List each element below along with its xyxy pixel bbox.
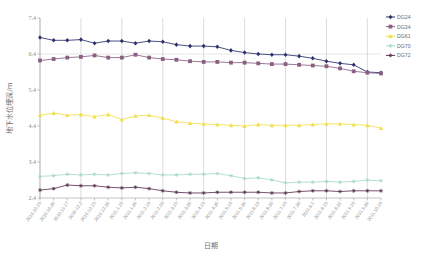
data-point [338,67,342,71]
data-point [52,187,56,191]
data-point [134,185,138,189]
series-DG70 [38,171,383,185]
data-point [38,175,42,179]
series-line-DG24 [40,37,381,72]
data-point [202,172,206,176]
series-DG34 [38,53,383,76]
data-point [79,173,83,177]
data-point [202,60,206,64]
series-line-DG61 [40,113,381,128]
data-point [297,180,301,184]
series-DG24 [38,35,383,75]
data-point [338,180,342,184]
data-point [175,58,179,62]
y-tick-label: 6.4 [29,51,37,57]
series-line-DG34 [40,55,381,74]
data-point [352,180,356,184]
data-point [147,172,151,176]
data-point [52,57,56,61]
data-point [352,69,356,73]
data-point [202,191,206,195]
data-point [338,61,342,66]
data-point [297,190,301,194]
data-point [284,62,288,66]
data-point [284,52,288,57]
y-tick-label: 4.4 [29,123,37,129]
data-point [65,172,69,176]
data-point [188,44,192,49]
chart-canvas: 2.43.44.45.46.47.42010.10.152010.10.3020… [0,0,422,254]
data-point [79,55,83,59]
legend-label-DG61[interactable]: DG61 [397,33,411,39]
data-point [389,54,393,58]
data-point [365,189,369,193]
x-tick-label: 2011.7.30 [286,200,302,220]
data-point [325,64,329,68]
data-point [365,71,369,75]
data-point [134,171,138,175]
data-point [93,172,97,176]
data-point [134,53,138,57]
data-point [243,190,247,194]
groundwater-depth-chart: 2.43.44.45.46.47.42010.10.152010.10.3020… [0,0,422,254]
data-point [175,173,179,177]
series-line-DG72 [40,185,381,193]
legend-marker-DG24 [389,15,393,20]
data-point [270,178,274,182]
data-point [379,72,383,76]
data-point [284,191,288,195]
data-point [365,178,369,182]
data-point [256,176,260,180]
legend-label-DG34[interactable]: DG34 [397,24,411,30]
data-point [147,39,151,44]
data-point [188,59,192,63]
data-point [93,54,97,58]
data-point [297,63,301,67]
data-point [311,189,315,193]
data-point [93,41,97,46]
data-point [389,44,393,48]
data-point [229,61,233,65]
data-point [52,38,56,43]
legend-label-DG24[interactable]: DG24 [397,14,411,20]
data-point [120,186,124,190]
data-point [256,190,260,194]
data-point [284,181,288,185]
data-point [297,54,301,59]
data-point [65,56,69,60]
data-point [147,187,151,191]
y-axis-title: 地下水位埋深/m [5,82,14,133]
data-point [215,172,219,176]
series-line-DG70 [40,173,381,183]
data-point [79,184,83,188]
x-axis-title: 日期 [204,242,218,250]
legend-marker-DG70 [389,44,393,48]
data-point [161,39,165,44]
data-point [243,61,247,65]
x-tick-label: 2011.8.1 [301,200,315,218]
legend-label-DG72[interactable]: DG72 [397,52,411,58]
data-point [338,190,342,194]
legend-marker-DG72 [389,54,393,58]
data-point [106,173,110,177]
data-point [229,174,233,178]
data-point [352,189,356,193]
data-point [270,191,274,195]
legend-label-DG70[interactable]: DG70 [397,43,411,49]
series-DG61 [38,111,383,130]
data-point [352,63,356,68]
legend: DG24DG34DG61DG70DG72 [386,14,411,58]
data-point [325,189,329,193]
y-tick-label: 2.4 [29,195,37,201]
data-point [106,39,110,44]
data-point [120,39,124,44]
y-tick-label: 7.4 [29,15,37,21]
data-point [270,62,274,66]
data-point [65,38,69,43]
data-point [175,42,179,47]
data-point [161,173,165,177]
data-point [311,180,315,184]
data-point [161,57,165,61]
legend-marker-DG34 [389,25,393,29]
data-point [161,189,165,193]
